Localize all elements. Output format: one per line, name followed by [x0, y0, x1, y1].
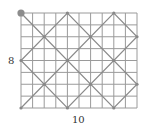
- height-label: 8: [8, 56, 14, 66]
- crossing-dot: [19, 106, 22, 109]
- crossing-dot: [43, 83, 46, 86]
- crossing-dot: [112, 106, 115, 109]
- grid-lines: [21, 13, 137, 108]
- crossing-dot: [66, 106, 69, 109]
- crossing-dot: [19, 59, 22, 62]
- crossing-dot: [89, 35, 92, 38]
- crossing-dot: [66, 59, 69, 62]
- crossing-dot: [89, 83, 92, 86]
- crossing-dot: [43, 35, 46, 38]
- crossing-dot: [66, 11, 69, 14]
- crossing-dot: [135, 83, 138, 86]
- start-ball: [17, 9, 24, 16]
- crossing-dot: [135, 35, 138, 38]
- crossing-dot: [112, 59, 115, 62]
- bouncing-path-diagram: [0, 0, 147, 131]
- crossing-dot: [112, 11, 115, 14]
- width-label: 10: [72, 115, 85, 125]
